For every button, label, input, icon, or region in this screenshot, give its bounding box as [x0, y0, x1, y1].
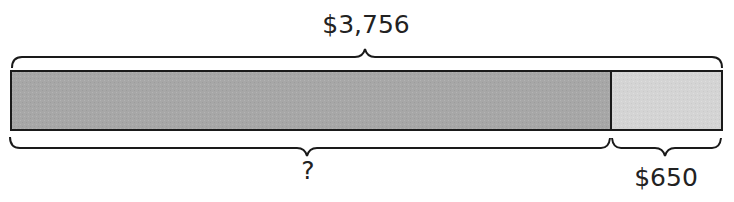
unknown-label: ? — [301, 156, 314, 185]
unknown-part-brace — [10, 137, 610, 156]
unknown-part-segment — [11, 71, 611, 130]
known-part-brace — [612, 138, 721, 156]
total-label: $3,756 — [322, 10, 409, 39]
known-part-label: $650 — [634, 163, 698, 192]
known-part-segment — [611, 71, 722, 130]
total-brace — [12, 49, 722, 68]
